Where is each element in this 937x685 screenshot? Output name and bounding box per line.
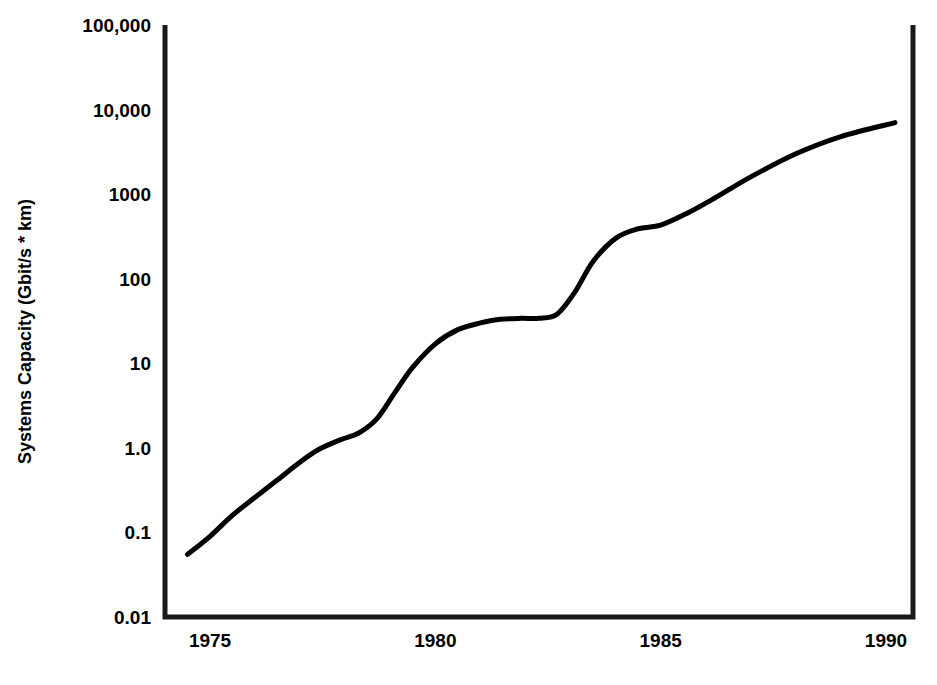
axis-frame <box>165 25 913 617</box>
plot-area <box>0 0 937 685</box>
chart-figure: Systems Capacity (Gbit/s * km) 0.010.11.… <box>0 0 937 685</box>
data-line-systems-capacity <box>188 123 895 555</box>
